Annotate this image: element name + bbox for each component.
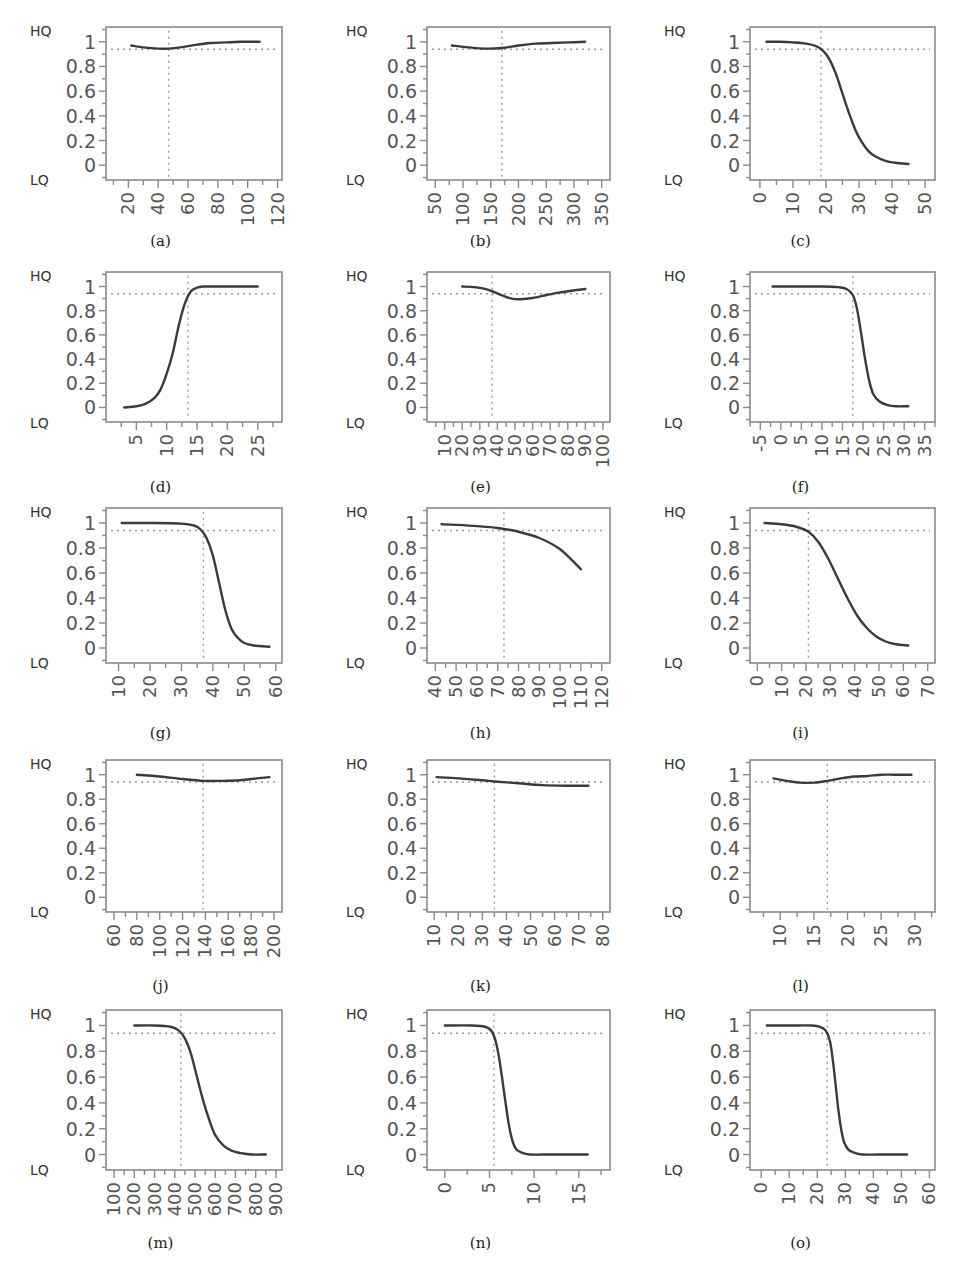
x-tick-label: 10 — [523, 1182, 544, 1205]
y-tick-label: 0.2 — [66, 130, 96, 152]
y-tick-label: 0.8 — [66, 1040, 96, 1062]
panel-caption: (a) — [0, 232, 321, 250]
x-tick-label: 15 — [803, 924, 824, 947]
y-tick-label: 0.6 — [387, 1066, 417, 1088]
y-tick-label: 0.2 — [387, 612, 417, 634]
x-tick-label: 50 — [424, 192, 445, 215]
x-tick-label: 60 — [544, 924, 565, 947]
panel-caption: (h) — [320, 724, 641, 742]
y-tick-label: 0.6 — [710, 80, 740, 102]
x-tick-label: 20 — [806, 1182, 827, 1205]
panel-j: 10.80.60.40.20HQLQ6080100120140160180200… — [0, 745, 321, 1000]
x-tick-label: 180 — [240, 924, 261, 958]
x-tick-label: 300 — [144, 1182, 165, 1216]
x-tick-label: 50 — [445, 675, 466, 698]
y-tick-label: 0.6 — [387, 324, 417, 346]
y-tick-label: 0 — [405, 1144, 417, 1166]
panel-h: 10.80.60.40.20HQLQ405060708090100110120(… — [320, 500, 641, 745]
x-tick-label: 60 — [103, 924, 124, 947]
x-tick-label: 5 — [125, 434, 146, 445]
x-tick-label: 0 — [750, 1182, 771, 1193]
x-tick-label: 80 — [592, 924, 613, 947]
plot-frame — [106, 27, 282, 180]
y-tick-label: 0 — [728, 396, 740, 418]
y-tick-label: 1 — [84, 276, 96, 298]
panel-caption: (o) — [640, 1234, 961, 1252]
x-tick-label: 10 — [423, 924, 444, 947]
lq-label: LQ — [30, 1162, 49, 1178]
y-tick-label: 0.8 — [387, 537, 417, 559]
plot-frame — [106, 1010, 282, 1170]
x-tick-label: 20 — [139, 675, 160, 698]
lq-label: LQ — [664, 655, 683, 671]
lq-label: LQ — [664, 415, 683, 431]
x-tick-label: 20 — [447, 924, 468, 947]
y-tick-label: 0.8 — [66, 537, 96, 559]
chart-svg: 10.80.60.40.20HQLQ50100150200250300350 — [320, 0, 641, 255]
panel-o: 10.80.60.40.20HQLQ0102030405060(o) — [640, 1000, 961, 1279]
x-tick-label: 0 — [770, 434, 791, 445]
x-tick-label: 30 — [819, 675, 840, 698]
x-tick-label: 30 — [834, 1182, 855, 1205]
x-tick-label: 90 — [528, 675, 549, 698]
y-tick-label: 0.8 — [387, 300, 417, 322]
x-tick-label: 100 — [452, 192, 473, 226]
hq-label: HQ — [30, 504, 52, 520]
hq-label: HQ — [664, 756, 686, 772]
panel-n: 10.80.60.40.20HQLQ051015(n) — [320, 1000, 641, 1279]
x-tick-label: 0 — [749, 192, 770, 203]
response-curve — [134, 1025, 265, 1154]
y-tick-label: 0.4 — [66, 587, 96, 609]
x-tick-label: 200 — [263, 924, 284, 958]
hq-label: HQ — [664, 268, 686, 284]
y-tick-label: 0.4 — [710, 348, 740, 370]
y-tick-label: 0.2 — [387, 372, 417, 394]
panel-caption: (m) — [0, 1234, 321, 1252]
x-tick-label: 60 — [892, 675, 913, 698]
lq-label: LQ — [346, 1162, 365, 1178]
y-tick-label: 0 — [84, 1144, 96, 1166]
x-tick-label: 40 — [881, 192, 902, 215]
x-tick-label: 80 — [508, 675, 529, 698]
x-tick-label: 100 — [549, 675, 570, 709]
y-tick-label: 0 — [405, 886, 417, 908]
y-tick-label: 0 — [84, 396, 96, 418]
hq-label: HQ — [30, 1006, 52, 1022]
y-tick-label: 1 — [405, 1014, 417, 1036]
x-tick-label: 30 — [904, 924, 925, 947]
x-tick-label: 500 — [184, 1182, 205, 1216]
y-tick-label: 1 — [405, 512, 417, 534]
y-tick-label: 0.4 — [387, 348, 417, 370]
x-tick-label: 600 — [204, 1182, 225, 1216]
lq-label: LQ — [664, 1162, 683, 1178]
x-tick-label: 70 — [568, 924, 589, 947]
panel-caption: (b) — [320, 232, 641, 250]
x-tick-label: 140 — [194, 924, 215, 958]
x-tick-label: 40 — [495, 924, 516, 947]
panel-b: 10.80.60.40.20HQLQ50100150200250300350(b… — [320, 0, 641, 255]
panel-caption: (k) — [320, 977, 641, 995]
response-curve — [765, 523, 909, 646]
y-tick-label: 1 — [728, 764, 740, 786]
x-tick-label: 60 — [918, 1182, 939, 1205]
hq-label: HQ — [664, 1006, 686, 1022]
y-tick-label: 0 — [84, 637, 96, 659]
hq-label: HQ — [346, 504, 368, 520]
x-tick-label: 10 — [769, 924, 790, 947]
y-tick-label: 0 — [728, 1144, 740, 1166]
y-tick-label: 0.6 — [710, 1066, 740, 1088]
y-tick-label: 0 — [728, 154, 740, 176]
panel-caption: (g) — [0, 724, 321, 742]
x-tick-label: 10 — [778, 1182, 799, 1205]
plot-frame — [427, 1010, 610, 1170]
x-tick-label: 200 — [123, 1182, 144, 1216]
panel-caption: (l) — [640, 977, 961, 995]
y-tick-label: 0.4 — [387, 105, 417, 127]
panel-i: 10.80.60.40.20HQLQ010203040506070(i) — [640, 500, 961, 745]
y-tick-label: 0.4 — [387, 1092, 417, 1114]
lq-label: LQ — [30, 172, 49, 188]
x-tick-label: 700 — [224, 1182, 245, 1216]
y-tick-label: 0.6 — [66, 80, 96, 102]
y-tick-label: 0.8 — [710, 300, 740, 322]
x-tick-label: 120 — [591, 675, 612, 709]
